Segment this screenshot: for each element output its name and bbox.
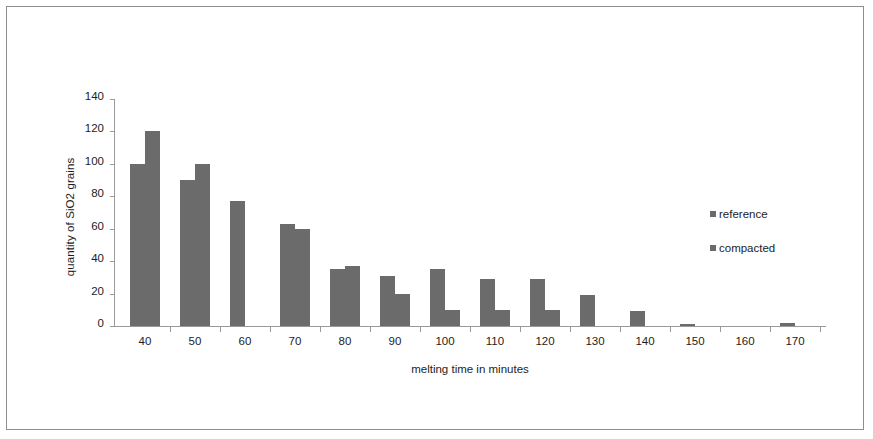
legend-entry-compacted: compacted — [710, 241, 850, 275]
bar-reference — [430, 269, 445, 326]
x-axis-tick-mark — [670, 327, 671, 332]
x-axis-tick-mark — [220, 327, 221, 332]
chart-frame: quantity of SiO2 grains 1401201008060402… — [6, 6, 864, 430]
bar-reference — [580, 295, 595, 326]
y-axis-tick-mark — [110, 294, 115, 295]
x-axis-tick-mark — [470, 327, 471, 332]
bar-group — [480, 99, 510, 326]
chart-legend: reference compacted — [710, 207, 850, 275]
y-axis-tick-label: 80 — [66, 187, 104, 199]
y-axis-tick-mark — [110, 131, 115, 132]
bar-reference — [280, 224, 295, 326]
x-axis-tick-mark — [570, 327, 571, 332]
y-axis-tick-mark — [110, 261, 115, 262]
bar-reference — [380, 276, 395, 326]
bar-group — [280, 99, 310, 326]
bar-group — [130, 99, 160, 326]
bar-compacted — [395, 294, 410, 326]
legend-entry-reference: reference — [710, 207, 850, 241]
bar-group — [630, 99, 660, 326]
y-axis-tick-label: 140 — [66, 90, 104, 102]
y-axis-tick-mark — [110, 196, 115, 197]
x-axis-tick-mark — [420, 327, 421, 332]
y-axis-tick-label: 100 — [66, 155, 104, 167]
x-axis-tick-mark — [270, 327, 271, 332]
bar-reference — [630, 311, 645, 326]
y-axis-tick-mark — [110, 164, 115, 165]
bar-group — [530, 99, 560, 326]
legend-label: compacted — [719, 242, 775, 254]
bar-group — [180, 99, 210, 326]
bar-group — [580, 99, 610, 326]
x-axis-tick-mark — [770, 327, 771, 332]
bar-group — [230, 99, 260, 326]
bar-compacted — [295, 229, 310, 326]
bar-compacted — [345, 266, 360, 326]
bar-compacted — [145, 131, 160, 326]
y-axis-tick-label: 20 — [66, 285, 104, 297]
bar-compacted — [195, 164, 210, 326]
bar-compacted — [445, 310, 460, 326]
bar-group — [330, 99, 360, 326]
bar-group — [680, 99, 710, 326]
bar-reference — [130, 164, 145, 326]
y-axis-tick-mark — [110, 326, 115, 327]
bar-reference — [480, 279, 495, 326]
y-axis-tick-label: 60 — [66, 220, 104, 232]
x-axis-tick-mark — [170, 327, 171, 332]
bar-reference — [180, 180, 195, 326]
y-axis-tick-mark — [110, 99, 115, 100]
x-axis-tick-mark — [720, 327, 721, 332]
x-axis-tick-mark — [520, 327, 521, 332]
legend-label: reference — [719, 208, 768, 220]
bar-reference — [230, 201, 245, 326]
bar-reference — [330, 269, 345, 326]
y-axis-tick-label: 40 — [66, 252, 104, 264]
y-axis-tick-mark — [110, 229, 115, 230]
x-axis-title: melting time in minutes — [120, 363, 820, 375]
bar-reference — [780, 323, 795, 326]
bar-chart: quantity of SiO2 grains 1401201008060402… — [7, 7, 865, 429]
x-axis-tick-label: 170 — [765, 335, 825, 347]
x-axis-tick-mark — [820, 327, 821, 332]
x-axis-tick-mark — [620, 327, 621, 332]
bar-group — [380, 99, 410, 326]
x-axis-tick-mark — [320, 327, 321, 332]
legend-swatch-icon — [710, 245, 716, 251]
y-axis-tick-label: 0 — [66, 317, 104, 329]
y-axis-tick-label: 120 — [66, 122, 104, 134]
bar-reference — [680, 324, 695, 326]
legend-swatch-icon — [710, 211, 716, 217]
x-axis-tick-mark — [370, 327, 371, 332]
bar-group — [430, 99, 460, 326]
bar-compacted — [545, 310, 560, 326]
bar-reference — [530, 279, 545, 326]
bar-compacted — [495, 310, 510, 326]
